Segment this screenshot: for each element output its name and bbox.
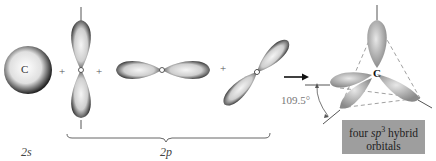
caption-text-line2: orbitals	[366, 140, 401, 152]
caption-sp: sp	[371, 127, 381, 139]
2s-label: 2s	[21, 145, 32, 160]
2px-orbital	[116, 61, 210, 79]
2p-brace	[67, 133, 270, 142]
carbon-label-s: C	[21, 63, 28, 75]
sp3-hybrid-orbitals	[305, 5, 432, 124]
caption-text: four	[349, 127, 371, 139]
2pz-orbital	[71, 7, 91, 129]
hybrid-orbitals-caption: four sp3 hybrid orbitals	[342, 120, 425, 154]
caption-text: hybrid	[385, 127, 418, 139]
reaction-arrow	[284, 74, 309, 81]
carbon-label-hybrid: C	[373, 67, 381, 79]
plus-sign: +	[59, 65, 65, 77]
plus-sign: +	[96, 65, 102, 77]
bond-angle-label: 109.5°	[281, 94, 310, 106]
plus-sign: +	[220, 62, 226, 74]
2p-label: 2p	[160, 145, 172, 160]
